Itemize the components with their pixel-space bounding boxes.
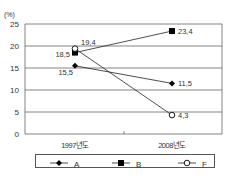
y-tick-label: 25: [10, 20, 19, 29]
data-label: 19,4: [81, 38, 96, 47]
legend-label: B: [136, 160, 141, 169]
data-label: 4,3: [178, 111, 188, 120]
square-marker-icon: [169, 28, 175, 34]
y-tick-label: 0: [15, 130, 20, 139]
x-tick-label: 2008년도: [158, 140, 186, 150]
circle-marker-icon: [72, 46, 78, 52]
legend: ABF: [35, 154, 215, 168]
x-tick-label: 1997년도: [61, 140, 89, 150]
gridlines: [25, 24, 222, 134]
legend-items: ABF: [36, 157, 214, 169]
circle-marker-icon: [184, 160, 190, 166]
data-label: 11,5: [178, 79, 192, 88]
y-tick-label: 5: [15, 108, 20, 117]
series-line-f: [75, 49, 172, 115]
y-tick-label: 10: [10, 86, 19, 95]
data-labels: 15,511,518,523,419,44,3: [55, 27, 192, 120]
y-tick-label: 20: [10, 42, 19, 51]
y-axis-unit-label: (%): [4, 11, 15, 19]
legend-label: F: [202, 160, 207, 169]
square-marker-icon: [118, 160, 124, 166]
diamond-marker-icon: [56, 160, 62, 166]
circle-marker-icon: [169, 112, 175, 118]
data-label: 15,5: [58, 68, 73, 77]
data-label: 18,5: [55, 50, 70, 59]
legend-label: A: [74, 160, 80, 169]
y-tick-label: 15: [10, 64, 19, 73]
data-label: 23,4: [178, 27, 193, 36]
diamond-marker-icon: [169, 80, 175, 86]
series-line-a: [75, 66, 172, 84]
